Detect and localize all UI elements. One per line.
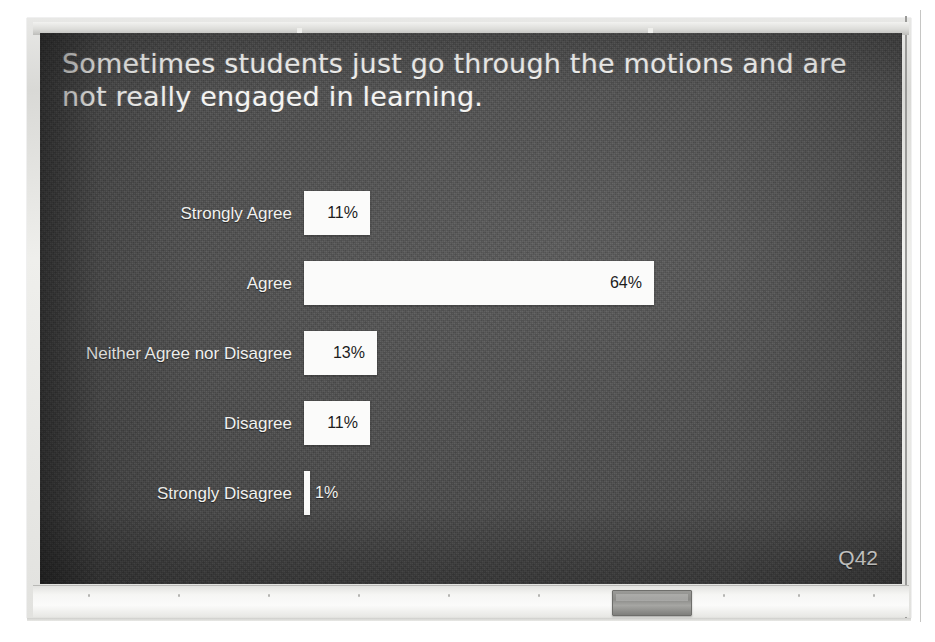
frame-outer-edge: [920, 10, 921, 622]
bar-track-agree: 64%: [304, 261, 902, 305]
slide-photo: Sometimes students just go through the m…: [0, 0, 935, 642]
bar-row-neither: Neither Agree nor Disagree 13%: [40, 318, 902, 388]
bar-disagree: 11%: [304, 401, 370, 445]
question-id: Q42: [838, 546, 878, 570]
bar-track-neither: 13%: [304, 331, 902, 375]
bar-value-strongly-agree: 11%: [327, 204, 370, 222]
bar-row-agree: Agree 64%: [40, 248, 902, 318]
bar-value-disagree: 11%: [327, 414, 370, 432]
bar-value-neither: 13%: [333, 344, 377, 362]
bar-label-disagree: Disagree: [40, 413, 304, 434]
frame-right-edge: [905, 16, 907, 620]
projection-board: Sometimes students just go through the m…: [40, 33, 902, 584]
slide-content: Sometimes students just go through the m…: [40, 33, 902, 584]
tray-speck: [178, 594, 180, 597]
bar-row-strongly-agree: Strongly Agree 11%: [40, 178, 902, 248]
bar-agree: 64%: [304, 261, 654, 305]
bar-strongly-agree: 11%: [304, 191, 370, 235]
survey-bar-chart: Strongly Agree 11% Agree 64%: [40, 178, 902, 528]
whiteboard-eraser: [612, 590, 692, 616]
bar-row-strongly-disagree: Strongly Disagree 1%: [40, 458, 902, 528]
bar-neither: 13%: [304, 331, 377, 375]
tray-speck: [358, 594, 360, 597]
tray-bottom-edge: [27, 618, 911, 621]
tray-speck: [538, 594, 540, 597]
tray-speck: [873, 594, 875, 597]
marker-tray: [33, 585, 909, 617]
bar-label-strongly-disagree: Strongly Disagree: [40, 483, 304, 504]
bar-track-strongly-agree: 11%: [304, 191, 902, 235]
bar-strongly-disagree: [304, 471, 310, 515]
bar-label-agree: Agree: [40, 273, 304, 294]
bar-row-disagree: Disagree 11%: [40, 388, 902, 458]
tray-speck: [88, 594, 90, 597]
bar-track-strongly-disagree: 1%: [304, 471, 902, 515]
tray-speck: [723, 594, 725, 597]
slide-title: Sometimes students just go through the m…: [62, 47, 862, 113]
bar-track-disagree: 11%: [304, 401, 902, 445]
tray-speck: [268, 594, 270, 597]
bar-value-strongly-disagree: 1%: [315, 484, 338, 502]
bar-label-strongly-agree: Strongly Agree: [40, 203, 304, 224]
tray-speck: [448, 594, 450, 597]
tray-speck: [798, 594, 800, 597]
bar-value-agree: 64%: [610, 274, 654, 292]
bar-label-neither: Neither Agree nor Disagree: [40, 343, 304, 364]
